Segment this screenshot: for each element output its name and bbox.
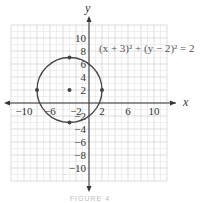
data-point — [68, 121, 72, 125]
y-tick-label: 2 — [81, 84, 87, 96]
y-tick-label: −4 — [74, 123, 86, 135]
data-point — [35, 88, 39, 92]
data-point — [68, 88, 72, 92]
x-tick-label: −6 — [44, 105, 56, 117]
y-tick-label: −10 — [69, 162, 87, 174]
figure-caption: FIGURE 4 — [0, 195, 180, 202]
x-axis-label: x — [182, 95, 189, 109]
x-tick-label: 2 — [99, 105, 105, 117]
y-axis-label: y — [84, 1, 91, 15]
y-tick-label: −6 — [74, 136, 86, 148]
x-tick-label: 10 — [149, 105, 161, 117]
y-tick-label: 4 — [81, 71, 87, 83]
coordinate-plane: −10−6−22610108642−2−4−6−8−10 x y (x + 3)… — [0, 0, 215, 203]
data-point — [68, 56, 72, 60]
y-tick-label: 10 — [75, 32, 87, 44]
y-tick-label: −8 — [74, 149, 86, 161]
data-point — [100, 88, 104, 92]
x-tick-label: −10 — [15, 105, 33, 117]
x-tick-label: 6 — [125, 105, 131, 117]
y-tick-label: 8 — [81, 45, 87, 57]
equation-annotation: (x + 3)² + (y − 2)² = 2 — [99, 42, 195, 55]
